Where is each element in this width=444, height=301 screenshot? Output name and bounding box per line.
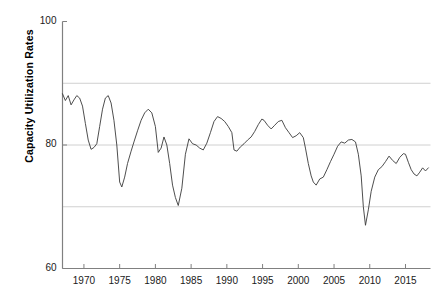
- series-line-0: [63, 94, 429, 226]
- capacity-utilization-chart: Capacity Utilization Rates 1008060 19701…: [0, 0, 444, 301]
- gridlines: [63, 83, 431, 207]
- plot-area: [0, 0, 444, 301]
- data-series-layer: [63, 94, 429, 226]
